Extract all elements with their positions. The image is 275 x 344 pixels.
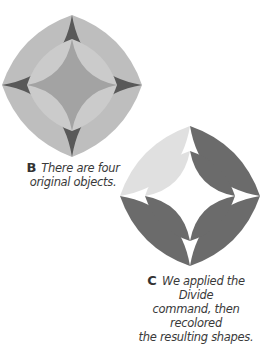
caption-c-line1: We applied the Divide xyxy=(162,274,245,302)
caption-c-line2: command, then recolored xyxy=(153,302,240,330)
caption-b-label: B xyxy=(26,160,36,175)
caption-c-line3: the resulting shapes. xyxy=(139,330,254,344)
caption-c-label: C xyxy=(147,273,156,288)
caption-b-line2: original objects. xyxy=(30,175,117,189)
caption-c: C We applied the Divide command, then re… xyxy=(131,274,261,344)
caption-b-line1: There are four xyxy=(41,161,119,175)
caption-b: B There are four original objects. xyxy=(22,161,124,189)
figure-c-shapes xyxy=(115,120,265,270)
